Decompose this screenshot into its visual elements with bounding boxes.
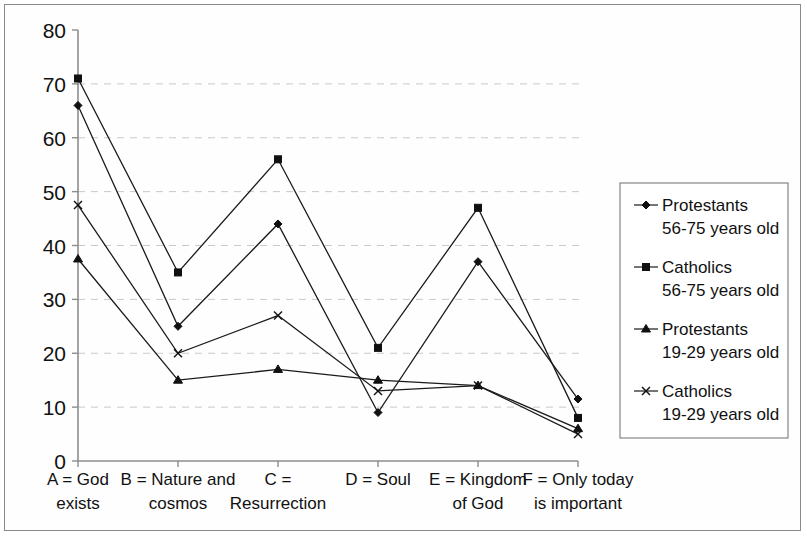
series-line	[78, 78, 578, 417]
marker-square	[175, 269, 182, 276]
x-category-label-line1: F = Only today	[522, 470, 634, 489]
x-category-label-line1: B = Nature and	[121, 470, 236, 489]
legend-label-line1: Protestants	[662, 320, 748, 339]
y-axis-ticks	[72, 30, 78, 461]
x-category-label-line2: exists	[56, 494, 99, 513]
x-category-label-line2: cosmos	[149, 494, 208, 513]
marker-diamond	[74, 101, 82, 109]
x-category-label-line1: C =	[265, 470, 292, 489]
y-tick-label: 70	[43, 73, 66, 96]
legend-label-line2: 56-75 years old	[662, 219, 779, 238]
y-tick-label: 50	[43, 181, 66, 204]
y-tick-label: 10	[43, 396, 66, 419]
y-tick-label: 40	[43, 235, 66, 258]
y-axis-tick-labels: 01020304050607080	[43, 19, 66, 473]
x-category-label-line1: D = Soul	[345, 470, 411, 489]
x-category-label-line1: E = Kingdom	[429, 470, 527, 489]
gridlines	[78, 84, 582, 407]
x-axis-ticks	[78, 461, 578, 467]
legend-label-line2: 19-29 years old	[662, 343, 779, 362]
marker-triangle	[274, 365, 283, 373]
y-tick-label: 20	[43, 342, 66, 365]
y-tick-label: 80	[43, 19, 66, 42]
x-category-label-line1: A = God	[47, 470, 109, 489]
marker-square	[475, 204, 482, 211]
y-tick-label: 30	[43, 288, 66, 311]
legend-label-line2: 56-75 years old	[662, 281, 779, 300]
line-chart: 01020304050607080 A = GodexistsB = Natur…	[0, 0, 807, 537]
marker-square	[643, 264, 650, 271]
marker-triangle	[74, 254, 83, 262]
marker-diamond	[374, 409, 382, 417]
y-tick-label: 60	[43, 127, 66, 150]
legend-label-line2: 19-29 years old	[662, 405, 779, 424]
legend-label-line1: Catholics	[662, 382, 732, 401]
x-axis-category-labels: A = GodexistsB = Nature andcosmosC =Resu…	[47, 470, 634, 513]
marker-square	[75, 75, 82, 82]
legend-label-line1: Protestants	[662, 196, 748, 215]
legend-label-line1: Catholics	[662, 258, 732, 277]
marker-square	[275, 156, 282, 163]
series-line	[78, 259, 578, 429]
data-series-group	[74, 75, 583, 438]
x-category-label-line2: Resurrection	[230, 494, 326, 513]
marker-square	[375, 344, 382, 351]
marker-square	[575, 414, 582, 421]
x-category-label-line2: of God	[452, 494, 503, 513]
x-category-label-line2: is important	[534, 494, 622, 513]
